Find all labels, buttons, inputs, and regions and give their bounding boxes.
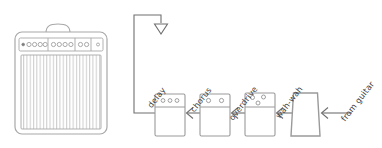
signal-chain-diagram: delay chorus overdrive: [0, 0, 382, 148]
amp-knob-tone-3[interactable]: [63, 42, 67, 46]
amp-knob-input-2[interactable]: [27, 42, 31, 46]
pedal-chorus-knob-2[interactable]: [219, 98, 223, 102]
amp-knob-tone-4[interactable]: [69, 42, 73, 46]
amp-knob-input-3[interactable]: [33, 42, 37, 46]
amp-knob-master-1[interactable]: [78, 42, 82, 46]
amp-knob-tone-1[interactable]: [51, 42, 55, 46]
amp-knob-input-5[interactable]: [43, 42, 47, 46]
amp-knob-input-1[interactable]: [22, 43, 25, 46]
amp-speaker-grille: [21, 55, 101, 129]
pedal-delay-knob-1[interactable]: [161, 99, 165, 103]
pedal-delay-knob-2[interactable]: [168, 99, 172, 103]
amp-knob-tone-2[interactable]: [57, 42, 61, 46]
pedal-delay-knob-3[interactable]: [175, 99, 179, 103]
from-guitar-label: from guitar: [339, 79, 377, 123]
arrowhead-into-amp-icon: [155, 24, 168, 34]
diagram-canvas: delay chorus overdrive: [0, 0, 382, 148]
guitar-amplifier: [15, 24, 107, 134]
power-indicator-icon: [97, 43, 100, 46]
amp-knob-input-4[interactable]: [38, 42, 42, 46]
amp-knob-master-2[interactable]: [85, 42, 89, 46]
pedal-overdrive-knob-3[interactable]: [256, 101, 260, 105]
pedal-overdrive-knob-2[interactable]: [262, 95, 266, 99]
